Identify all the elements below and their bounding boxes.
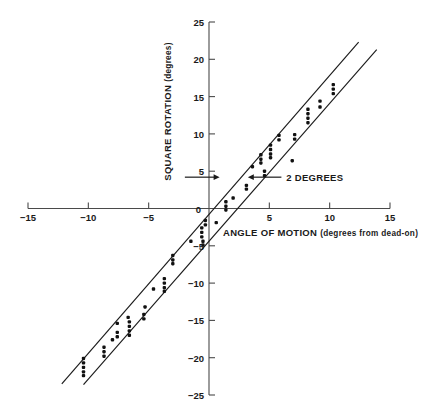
data-point — [111, 338, 114, 341]
data-point — [245, 184, 248, 187]
data-point — [171, 258, 174, 261]
data-point — [318, 105, 321, 108]
x-tick-label--10: −10 — [80, 212, 96, 223]
data-point — [163, 281, 166, 284]
data-point — [82, 361, 85, 364]
data-point — [224, 205, 227, 208]
data-point — [116, 331, 119, 334]
data-point — [116, 335, 119, 338]
x-tick-label-5: 5 — [267, 212, 273, 223]
data-point — [306, 112, 309, 115]
y-tick-label-15: 15 — [193, 92, 204, 103]
data-point — [224, 208, 227, 211]
data-point — [215, 221, 218, 224]
data-point — [204, 223, 207, 226]
data-point — [332, 83, 335, 86]
data-point — [200, 226, 203, 229]
y-tick-label-10: 10 — [193, 129, 204, 140]
data-point — [251, 165, 254, 168]
annotation-left-arrow-head — [214, 174, 220, 180]
scatter-plot: 2 DEGREES −15−10−5510152520151050−5−10−1… — [0, 0, 423, 414]
figure-container: 2 DEGREES −15−10−5510152520151050−5−10−1… — [0, 0, 423, 414]
data-point — [332, 87, 335, 90]
y-axis-title-units: (degrees) — [164, 42, 173, 82]
data-point — [231, 196, 234, 199]
data-point — [143, 305, 146, 308]
x-tick-label--15: −15 — [20, 212, 37, 223]
data-point — [82, 366, 85, 369]
data-point — [306, 117, 309, 120]
data-point — [269, 156, 272, 159]
y-tick-label-5: 5 — [199, 166, 205, 177]
y-tick-label--25: −25 — [188, 390, 205, 401]
data-point — [142, 313, 145, 316]
y-tick-label-0: 0 — [196, 204, 201, 215]
data-point — [128, 325, 131, 328]
x-axis-title-units: (degrees from dead-on) — [320, 229, 418, 238]
annotation-right-arrow-head — [248, 174, 254, 180]
data-point — [128, 320, 131, 323]
data-point — [128, 334, 131, 337]
data-point — [263, 170, 266, 173]
data-point — [163, 277, 166, 280]
data-point — [82, 374, 85, 377]
data-point — [277, 138, 280, 141]
data-point — [116, 322, 119, 325]
data-point — [102, 350, 105, 353]
y-tick-label-25: 25 — [193, 17, 204, 28]
data-point — [318, 99, 321, 102]
y-tick-label--15: −15 — [188, 315, 205, 326]
data-point — [102, 355, 105, 358]
x-tick-label--5: −5 — [143, 212, 155, 223]
data-point — [200, 231, 203, 234]
data-point — [332, 92, 335, 95]
data-point — [277, 134, 280, 137]
data-point — [189, 240, 192, 243]
data-point — [200, 235, 203, 238]
x-axis-title: ANGLE OF MOTION (degrees from dead-on) — [223, 227, 418, 238]
annotation-label-2-degrees: 2 DEGREES — [286, 172, 343, 183]
data-point — [142, 317, 145, 320]
x-tick-label-10: 10 — [324, 212, 335, 223]
data-point — [259, 161, 262, 164]
axes — [28, 22, 390, 395]
data-point — [82, 357, 85, 360]
data-point — [269, 148, 272, 151]
data-point — [126, 316, 129, 319]
y-axis-title: SQUARE ROTATION (degrees) — [162, 42, 173, 180]
fit-line-upper — [62, 42, 359, 384]
data-point — [102, 346, 105, 349]
y-tick-label--10: −10 — [188, 278, 204, 289]
y-axis-title-group: SQUARE ROTATION (degrees) — [162, 42, 173, 180]
data-point — [245, 187, 248, 190]
data-point — [82, 370, 85, 373]
data-point — [306, 108, 309, 111]
y-tick-label--5: −5 — [193, 241, 205, 252]
x-tick-label-15: 15 — [385, 212, 396, 223]
data-point — [259, 153, 262, 156]
data-point — [269, 143, 272, 146]
data-point — [171, 254, 174, 257]
data-point — [293, 133, 296, 136]
data-point — [293, 137, 296, 140]
data-point — [163, 286, 166, 289]
y-tick-label-20: 20 — [193, 54, 204, 65]
data-point — [204, 219, 207, 222]
data-point — [269, 152, 272, 155]
data-point — [152, 287, 155, 290]
y-tick-label--20: −20 — [188, 353, 204, 364]
data-point — [224, 200, 227, 203]
data-point — [291, 159, 294, 162]
data-point — [306, 121, 309, 124]
data-point — [128, 329, 131, 332]
data-point — [259, 158, 262, 161]
data-point — [171, 262, 174, 265]
data-point — [163, 290, 166, 293]
